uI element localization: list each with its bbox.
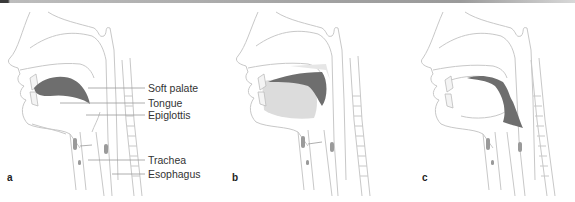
esophagus-mark <box>104 144 108 154</box>
panel-a: Soft palate Tongue Epiglottis Trachea Es… <box>0 0 200 202</box>
trachea-ring <box>73 138 77 150</box>
anatomy-illustration-b <box>190 0 390 202</box>
label-tongue: Tongue <box>148 97 182 109</box>
trachea-ring <box>301 136 305 148</box>
panel-letter-b: b <box>232 172 238 183</box>
label-epiglottis: Epiglottis <box>148 109 191 121</box>
bolus-shape <box>467 76 523 128</box>
anatomy-illustration-c <box>375 0 575 202</box>
teeth-icon <box>445 76 453 108</box>
panel-c: c <box>375 0 575 202</box>
trachea-ring <box>306 160 309 165</box>
bolus-shape <box>34 77 90 104</box>
esophagus-mark <box>330 142 334 152</box>
trachea-ring <box>486 138 490 150</box>
panel-b: b <box>190 0 390 202</box>
trachea-ring <box>78 160 81 165</box>
trachea-ring <box>491 160 494 165</box>
panel-letter-c: c <box>422 172 428 183</box>
label-trachea: Trachea <box>148 154 186 166</box>
panel-letter-a: a <box>7 172 13 183</box>
esophagus-mark <box>518 142 522 152</box>
